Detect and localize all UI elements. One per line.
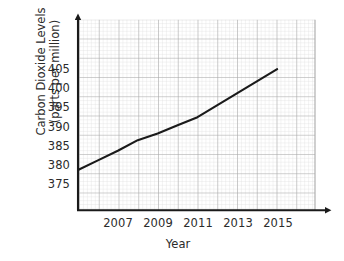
x-tick-2011: 2011 bbox=[178, 216, 218, 230]
y-axis-title-line2: (parts per million) bbox=[48, 0, 62, 162]
x-tick-2013: 2013 bbox=[218, 216, 258, 230]
co2-line-chart: 405 400 395 390 385 380 375 2007 2009 20… bbox=[0, 0, 344, 261]
y-axis-title-line1: Carbon Dioxide Levels bbox=[35, 0, 49, 162]
x-tick-2007: 2007 bbox=[98, 216, 138, 230]
chart-gridlines bbox=[78, 20, 315, 211]
x-tick-2009: 2009 bbox=[138, 216, 178, 230]
x-tick-2015: 2015 bbox=[258, 216, 298, 230]
y-tick-375: 375 bbox=[36, 177, 70, 191]
x-axis-title: Year bbox=[78, 237, 278, 251]
y-axis-title: Carbon Dioxide Levels (parts per million… bbox=[35, 0, 62, 162]
